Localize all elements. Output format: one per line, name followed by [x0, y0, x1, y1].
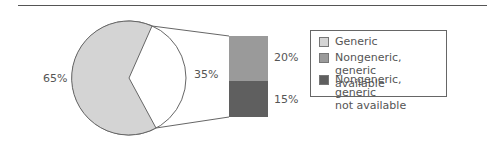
- swatch-icon: [319, 75, 329, 85]
- bar-generic-not-available: [229, 81, 268, 117]
- label-notavail: 15%: [274, 93, 298, 106]
- label-avail: 20%: [274, 51, 298, 64]
- legend-item-notavail: Nongeneric, genericnot available: [319, 73, 446, 112]
- swatch-icon: [319, 37, 329, 47]
- label-generic: 65%: [43, 72, 67, 85]
- legend: Generic Nongeneric, genericavailable Non…: [310, 30, 447, 97]
- label-nongeneric: 35%: [194, 68, 218, 81]
- legend-item-generic: Generic: [319, 35, 378, 48]
- bar-generic-available: [229, 36, 268, 81]
- swatch-icon: [319, 53, 329, 63]
